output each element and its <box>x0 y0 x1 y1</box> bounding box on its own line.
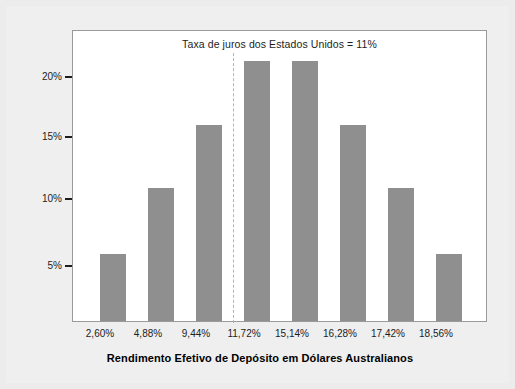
reference-line-us-interest-rate <box>233 53 234 323</box>
bar-8 <box>436 254 462 321</box>
bar-1 <box>100 254 126 321</box>
y-tick-label-5: 5% <box>20 260 62 271</box>
y-tick-label-15: 15% <box>20 131 62 142</box>
x-tick-label-8: 18,56% <box>408 328 464 339</box>
bar-3 <box>196 125 222 321</box>
chart-figure: Probabilidade 20% 15% 10% 5% Taxa de jur… <box>0 0 515 389</box>
x-axis-title: Rendimento Efetivo de Depósito em Dólare… <box>40 352 480 364</box>
bar-2 <box>148 188 174 321</box>
plot-area <box>73 31 486 321</box>
y-tick-label-10: 10% <box>20 193 62 204</box>
y-tick-label-20: 20% <box>20 71 62 82</box>
bar-4 <box>244 61 270 321</box>
y-axis-labels: 20% 15% 10% 5% <box>8 0 62 389</box>
plot-panel <box>72 30 487 322</box>
bar-5 <box>292 61 318 321</box>
annotation-us-interest-rate: Taxa de juros dos Estados Unidos = 11% <box>72 38 487 50</box>
bar-7 <box>388 188 414 321</box>
bar-6 <box>340 125 366 321</box>
